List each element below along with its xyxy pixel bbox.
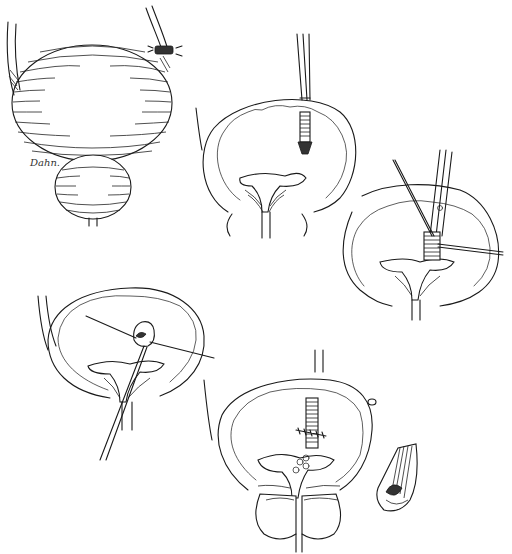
panel-b-opened-bladder [196,34,356,238]
panel-d-everted-stump [38,288,214,460]
panel-e-closure-prostate [204,350,376,552]
panel-a-distended-bladder: Dahn. [7,6,182,226]
panel-c-traction-sutures [343,150,503,320]
panel-f-inset-stump [377,444,417,511]
artist-signature: Dahn. [29,157,60,168]
surgical-illustration: Dahn. [0,0,512,554]
